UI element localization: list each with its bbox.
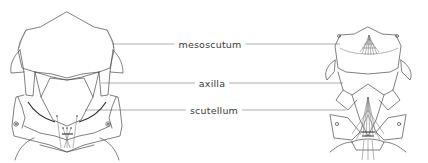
left-specimen <box>11 12 123 160</box>
right-specimen <box>326 27 411 160</box>
right-setae-top <box>360 35 379 55</box>
label-mesoscutum: mesoscutum <box>174 39 245 50</box>
label-axilla: axilla <box>195 78 229 89</box>
right-setae-scutellum <box>352 97 384 140</box>
left-setae <box>56 115 78 148</box>
anatomy-figure: mesoscutum axilla scutellum <box>0 0 428 163</box>
label-scutellum: scutellum <box>186 105 242 116</box>
